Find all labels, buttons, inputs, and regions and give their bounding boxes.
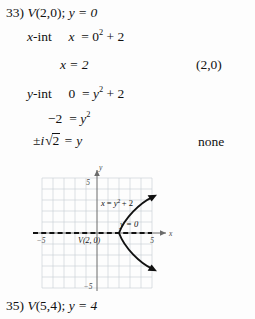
x-intercept-answer: (2,0) xyxy=(196,57,222,73)
axis-equation: y = 0 xyxy=(69,5,98,20)
vertex-coordinates: (2,0) xyxy=(36,5,62,20)
x-int-eq-base: 0 xyxy=(92,29,99,44)
y-intercept-work-line: y-int 0 = y2 + 2 xyxy=(27,85,124,102)
problem-header: 33) V(2,0); y = 0 xyxy=(6,5,97,21)
y-axis-label: y xyxy=(98,163,103,172)
worksheet-page: 33) V(2,0); y = 0 x-int x = 02 + 2 x = 2… xyxy=(0,0,255,319)
next-problem-header: 35) V(5,4); y = 4 xyxy=(6,298,97,314)
y-int-eq-tail: + 2 xyxy=(107,86,125,101)
x-int-eq-tail: + 2 xyxy=(107,29,125,44)
curve-equation-label: x=y2+ 2 xyxy=(100,198,133,208)
neg2-eq-sign: = xyxy=(66,111,80,126)
imaginary-solution-line: ±i√2 = y xyxy=(33,133,82,149)
statement-separator: ; xyxy=(62,5,69,20)
y-int-label-rest: -int xyxy=(33,86,52,101)
x-int-eq-lhs: x xyxy=(69,29,75,44)
curve-label-tail: + 2 xyxy=(122,198,133,208)
x-value-equation: x = 2 xyxy=(60,57,89,72)
x-intercept-work-line: x-int x = 02 + 2 xyxy=(27,28,124,45)
graph-svg: x=y2+ 2 y = 0 V(2, 0) x y 5 −5 −5 5 xyxy=(0,163,255,293)
x-value-line: x = 2 xyxy=(60,57,89,73)
next-vertex-coordinates: (5,4) xyxy=(36,298,62,313)
x-int-label-rest: -int xyxy=(33,29,52,44)
negative-two-line: −2 = y2 xyxy=(48,110,90,127)
vertex-symbol: V xyxy=(27,5,35,20)
y-intercept-answer: none xyxy=(198,134,224,150)
y-int-eq-lhs: 0 xyxy=(69,86,76,101)
x-int-eq-sign: = xyxy=(78,29,92,44)
next-statement-separator: ; xyxy=(62,298,69,313)
y-int-eq-sign: = xyxy=(79,86,93,101)
svg-text:x=y2+ 2: x=y2+ 2 xyxy=(100,198,133,208)
x-axis-label: x xyxy=(168,229,173,238)
curve-label-eq: = xyxy=(107,198,112,208)
imaginary-tail: = y xyxy=(64,133,82,148)
x-tick-positive-5: 5 xyxy=(150,236,154,245)
y-int-eq-exponent: 2 xyxy=(99,85,103,94)
y-tick-negative-5: −5 xyxy=(84,282,93,291)
problem-number: 33) xyxy=(6,5,24,20)
imaginary-prefix: ±i xyxy=(33,133,44,148)
x-int-eq-exponent: 2 xyxy=(99,28,103,37)
radicand: 2 xyxy=(52,133,61,148)
axis-line-label: y = 0 xyxy=(119,219,139,229)
next-axis-equation: y = 4 xyxy=(69,298,98,313)
neg2-lhs: −2 xyxy=(48,111,62,126)
neg2-rhs-exponent: 2 xyxy=(86,110,90,119)
parabola-graph-figure: x=y2+ 2 y = 0 V(2, 0) x y 5 −5 −5 5 xyxy=(0,163,255,293)
curve-label-exp: 2 xyxy=(118,198,121,204)
x-tick-negative-5: −5 xyxy=(37,236,46,245)
vertex-annotation-label: V(2, 0) xyxy=(78,236,101,245)
next-problem-number: 35) xyxy=(6,298,24,313)
y-tick-positive-5: 5 xyxy=(86,178,90,187)
square-root-icon: √2 xyxy=(44,133,60,149)
y-axis xyxy=(94,170,100,291)
curve-label-lhs: x xyxy=(100,198,105,208)
next-vertex-symbol: V xyxy=(27,298,35,313)
